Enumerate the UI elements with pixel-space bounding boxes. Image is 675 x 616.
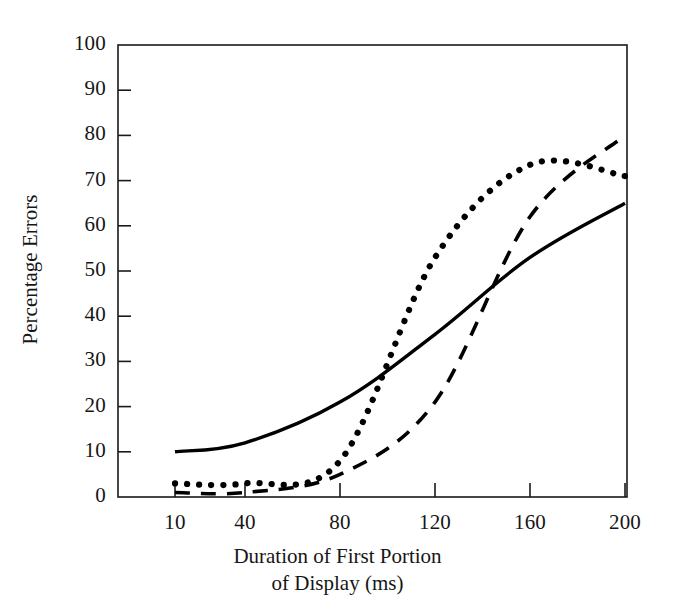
y-axis-tick-label: 90 [85,76,106,101]
x-axis-title-line1: Duration of First Portion [0,543,675,570]
y-axis-tick-label: 50 [85,257,106,282]
x-axis-tick-label: 200 [585,510,665,535]
x-axis-title-line2: of Display (ms) [0,570,675,597]
x-axis-tick-label: 160 [490,510,570,535]
x-axis-title: Duration of First Portion of Display (ms… [0,543,675,597]
x-axis-tick-label: 10 [135,510,215,535]
x-axis-tick-label: 80 [300,510,380,535]
y-axis-title: Percentage Errors [18,150,43,390]
y-axis-tick-label: 40 [85,302,106,327]
y-axis-tick-label: 70 [85,167,106,192]
x-axis-tick-label: 120 [395,510,475,535]
chart-figure: 0102030405060708090100 104080120160200 P… [0,0,675,616]
y-axis-tick-label: 0 [95,483,106,508]
y-axis-tick-label: 20 [85,393,106,418]
y-axis-tick-label: 100 [74,31,106,56]
x-axis-tick-label: 40 [205,510,285,535]
y-axis-tick-label: 80 [85,121,106,146]
y-axis-tick-label: 60 [85,212,106,237]
y-axis-tick-label: 30 [85,347,106,372]
y-axis-tick-label: 10 [85,438,106,463]
